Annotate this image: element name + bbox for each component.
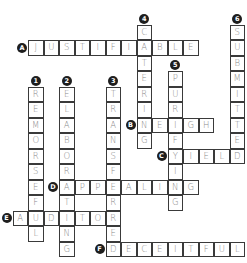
crossword-cell[interactable]: A bbox=[121, 180, 137, 196]
crossword-cell[interactable]: E bbox=[106, 180, 122, 196]
crossword-cell[interactable]: F bbox=[106, 40, 122, 56]
crossword-cell[interactable]: T bbox=[59, 195, 75, 211]
crossword-cell[interactable]: E bbox=[230, 133, 246, 149]
crossword-cell[interactable]: D bbox=[230, 149, 246, 165]
crossword-cell[interactable]: E bbox=[28, 180, 44, 196]
crossword-cell[interactable]: I bbox=[230, 87, 246, 103]
crossword-cell[interactable]: R bbox=[106, 211, 122, 227]
crossword-cell[interactable]: I bbox=[152, 180, 168, 196]
crossword-cell[interactable]: T bbox=[75, 211, 91, 227]
crossword-cell[interactable]: I bbox=[137, 102, 153, 118]
crossword-cell[interactable]: L bbox=[59, 102, 75, 118]
crossword-cell[interactable]: O bbox=[28, 133, 44, 149]
crossword-cell[interactable]: O bbox=[59, 149, 75, 165]
crossword-cell[interactable]: H bbox=[199, 118, 215, 134]
crossword-cell[interactable]: E bbox=[152, 242, 168, 258]
crossword-cell[interactable]: I bbox=[59, 211, 75, 227]
crossword-cell[interactable]: J bbox=[28, 40, 44, 56]
crossword-cell[interactable]: A bbox=[137, 40, 153, 56]
crossword-cell[interactable]: B bbox=[59, 133, 75, 149]
crossword-cell[interactable]: E bbox=[28, 102, 44, 118]
crossword-cell[interactable]: U bbox=[214, 242, 230, 258]
crossword-cell[interactable]: L bbox=[28, 226, 44, 242]
crossword-cell[interactable]: L bbox=[168, 40, 184, 56]
clue-badge-down-2: 2 bbox=[62, 76, 72, 86]
crossword-cell[interactable]: F bbox=[106, 164, 122, 180]
crossword-cell[interactable]: D bbox=[44, 211, 60, 227]
crossword-cell[interactable]: U bbox=[44, 40, 60, 56]
crossword-cell[interactable]: G bbox=[137, 133, 153, 149]
crossword-cell[interactable]: U bbox=[28, 211, 44, 227]
crossword-cell[interactable]: M bbox=[230, 71, 246, 87]
clue-badge-across-b: B bbox=[126, 120, 136, 130]
crossword-cell[interactable]: T bbox=[106, 87, 122, 103]
crossword-cell[interactable]: T bbox=[230, 102, 246, 118]
crossword-cell[interactable]: C bbox=[137, 25, 153, 41]
clue-badge-across-d: D bbox=[48, 182, 58, 192]
crossword-cell[interactable]: T bbox=[75, 40, 91, 56]
crossword-cell[interactable]: A bbox=[59, 180, 75, 196]
crossword-cell[interactable]: R bbox=[168, 102, 184, 118]
crossword-cell[interactable]: N bbox=[137, 118, 153, 134]
crossword-cell[interactable]: E bbox=[121, 242, 137, 258]
crossword-cell[interactable]: L bbox=[230, 242, 246, 258]
crossword-cell[interactable]: I bbox=[168, 118, 184, 134]
crossword-cell[interactable]: I bbox=[121, 40, 137, 56]
crossword-cell[interactable]: L bbox=[137, 180, 153, 196]
crossword-cell[interactable]: N bbox=[168, 180, 184, 196]
crossword-cell[interactable]: N bbox=[106, 133, 122, 149]
crossword-cell[interactable]: A bbox=[106, 118, 122, 134]
crossword-cell[interactable]: T bbox=[137, 56, 153, 72]
crossword-cell[interactable]: T bbox=[230, 118, 246, 134]
crossword-cell[interactable]: E bbox=[106, 226, 122, 242]
crossword-cell[interactable]: A bbox=[13, 211, 29, 227]
crossword-cell[interactable]: P bbox=[75, 180, 91, 196]
crossword-board: JUSTIFIABLEANEIGHBYIELDCAPPEALINGDAUDITO… bbox=[0, 0, 247, 263]
crossword-cell[interactable]: D bbox=[106, 242, 122, 258]
crossword-cell[interactable]: R bbox=[28, 149, 44, 165]
crossword-cell[interactable]: R bbox=[106, 195, 122, 211]
crossword-cell[interactable]: G bbox=[183, 180, 199, 196]
crossword-cell[interactable]: E bbox=[199, 149, 215, 165]
crossword-cell[interactable]: S bbox=[230, 25, 246, 41]
crossword-cell[interactable]: L bbox=[214, 149, 230, 165]
crossword-cell[interactable]: U bbox=[230, 40, 246, 56]
crossword-cell[interactable]: R bbox=[106, 102, 122, 118]
crossword-cell[interactable]: A bbox=[59, 118, 75, 134]
crossword-cell[interactable]: M bbox=[28, 118, 44, 134]
crossword-cell[interactable]: R bbox=[28, 87, 44, 103]
crossword-cell[interactable]: O bbox=[90, 211, 106, 227]
crossword-cell[interactable]: F bbox=[28, 195, 44, 211]
crossword-cell[interactable]: Y bbox=[168, 149, 184, 165]
clue-badge-down-3: 3 bbox=[108, 76, 118, 86]
clue-badge-across-c: C bbox=[157, 151, 167, 161]
crossword-cell[interactable]: G bbox=[168, 195, 184, 211]
crossword-cell[interactable]: S bbox=[59, 40, 75, 56]
crossword-cell[interactable]: T bbox=[183, 242, 199, 258]
crossword-cell[interactable]: F bbox=[199, 242, 215, 258]
crossword-cell[interactable]: S bbox=[28, 164, 44, 180]
crossword-cell[interactable]: R bbox=[59, 164, 75, 180]
crossword-cell[interactable]: U bbox=[168, 87, 184, 103]
crossword-cell[interactable]: I bbox=[90, 40, 106, 56]
crossword-cell[interactable]: E bbox=[137, 71, 153, 87]
clue-badge-down-6: 6 bbox=[232, 14, 242, 24]
crossword-cell[interactable]: C bbox=[137, 242, 153, 258]
crossword-cell[interactable]: B bbox=[230, 56, 246, 72]
crossword-cell[interactable]: N bbox=[59, 226, 75, 242]
crossword-cell[interactable]: P bbox=[90, 180, 106, 196]
crossword-cell[interactable]: I bbox=[183, 149, 199, 165]
crossword-cell[interactable]: S bbox=[106, 149, 122, 165]
crossword-cell[interactable]: R bbox=[137, 87, 153, 103]
crossword-cell[interactable]: G bbox=[183, 118, 199, 134]
crossword-cell[interactable]: E bbox=[183, 40, 199, 56]
crossword-cell[interactable]: B bbox=[152, 40, 168, 56]
crossword-cell[interactable]: P bbox=[168, 71, 184, 87]
crossword-cell[interactable]: E bbox=[59, 87, 75, 103]
crossword-cell[interactable]: I bbox=[168, 242, 184, 258]
crossword-cell[interactable]: E bbox=[152, 118, 168, 134]
crossword-cell[interactable]: F bbox=[168, 133, 184, 149]
clue-badge-across-e: E bbox=[2, 213, 12, 223]
crossword-cell[interactable]: G bbox=[59, 242, 75, 258]
crossword-cell[interactable]: I bbox=[168, 164, 184, 180]
